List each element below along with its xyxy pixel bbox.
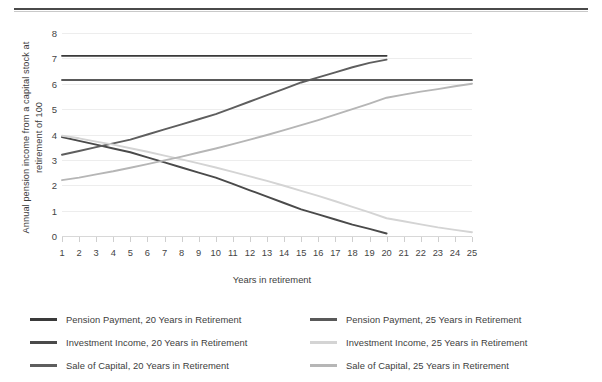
y-tick-label: 1 bbox=[52, 205, 57, 216]
x-tick-label: 11 bbox=[228, 248, 238, 258]
x-tick-label: 9 bbox=[196, 248, 201, 258]
x-tick bbox=[199, 237, 200, 242]
x-tick-label: 7 bbox=[162, 248, 167, 258]
x-tick-label: 15 bbox=[296, 248, 306, 258]
legend-item[interactable]: Sale of Capital, 20 Years in Retirement bbox=[30, 354, 292, 377]
y-tick-label: 2 bbox=[52, 180, 57, 191]
x-tick bbox=[96, 237, 97, 242]
legend-swatch-icon bbox=[310, 341, 337, 344]
x-tick-label: 12 bbox=[245, 248, 255, 258]
x-tick-label: 5 bbox=[128, 248, 133, 258]
legend-swatch-icon bbox=[30, 318, 57, 321]
series-layer bbox=[62, 33, 472, 236]
x-tick-label: 16 bbox=[313, 248, 323, 258]
x-tick-label: 18 bbox=[347, 248, 357, 258]
legend-item[interactable]: Pension Payment, 25 Years in Retirement bbox=[310, 308, 572, 331]
legend-swatch-icon bbox=[30, 364, 57, 367]
figure-top-rule-secondary bbox=[14, 11, 588, 12]
x-tick-label: 3 bbox=[94, 248, 99, 258]
legend-label: Pension Payment, 20 Years in Retirement bbox=[66, 314, 242, 325]
x-tick bbox=[79, 237, 80, 242]
x-tick bbox=[421, 237, 422, 242]
x-tick-label: 19 bbox=[364, 248, 374, 258]
x-tick-label: 24 bbox=[450, 248, 460, 258]
x-tick-label: 22 bbox=[416, 248, 426, 258]
y-tick-label: 0 bbox=[52, 231, 57, 242]
legend-label: Pension Payment, 25 Years in Retirement bbox=[346, 314, 522, 325]
x-tick bbox=[404, 237, 405, 242]
series-line bbox=[62, 60, 387, 155]
legend-swatch-icon bbox=[310, 364, 337, 367]
y-tick-label: 6 bbox=[52, 78, 57, 89]
x-tick bbox=[147, 237, 148, 242]
x-tick-label: 23 bbox=[433, 248, 443, 258]
x-tick-label: 20 bbox=[381, 248, 391, 258]
legend-swatch-icon bbox=[30, 341, 57, 344]
legend-item[interactable]: Pension Payment, 20 Years in Retirement bbox=[30, 308, 292, 331]
x-tick-label: 14 bbox=[279, 248, 289, 258]
x-tick-label: 1 bbox=[59, 248, 64, 258]
x-axis-title: Years in retirement bbox=[62, 274, 482, 285]
y-tick-label: 7 bbox=[52, 53, 57, 64]
x-tick-label: 21 bbox=[398, 248, 408, 258]
legend-item[interactable]: Investment Income, 25 Years in Retiremen… bbox=[310, 331, 572, 354]
legend-swatch-icon bbox=[310, 318, 337, 321]
x-tick bbox=[472, 237, 473, 242]
x-tick bbox=[233, 237, 234, 242]
x-tick bbox=[370, 237, 371, 242]
x-tick-label: 13 bbox=[262, 248, 272, 258]
legend-label: Investment Income, 25 Years in Retiremen… bbox=[346, 337, 527, 348]
x-tick bbox=[216, 237, 217, 242]
x-tick-label: 17 bbox=[330, 248, 340, 258]
y-tick-label: 8 bbox=[52, 28, 57, 39]
y-tick-label: 5 bbox=[52, 104, 57, 115]
legend-label: Sale of Capital, 25 Years in Retirement bbox=[346, 360, 509, 371]
series-line bbox=[62, 84, 472, 180]
x-tick bbox=[267, 237, 268, 242]
legend-label: Sale of Capital, 20 Years in Retirement bbox=[66, 360, 229, 371]
legend-label: Investment Income, 20 Years in Retiremen… bbox=[66, 337, 247, 348]
x-tick-label: 10 bbox=[211, 248, 221, 258]
legend-item[interactable]: Investment Income, 20 Years in Retiremen… bbox=[30, 331, 292, 354]
chart-legend: Pension Payment, 20 Years in RetirementP… bbox=[30, 308, 575, 377]
x-tick bbox=[250, 237, 251, 242]
x-tick-label: 6 bbox=[145, 248, 150, 258]
x-tick-label: 8 bbox=[179, 248, 184, 258]
x-tick bbox=[130, 237, 131, 242]
x-tick bbox=[182, 237, 183, 242]
x-tick-label: 4 bbox=[111, 248, 116, 258]
x-tick bbox=[318, 237, 319, 242]
x-tick bbox=[352, 237, 353, 242]
x-tick bbox=[438, 237, 439, 242]
plot-wrapper: 012345678 123456789101112131415161718192… bbox=[40, 26, 495, 246]
x-tick-label: 2 bbox=[76, 248, 81, 258]
x-tick-label: 25 bbox=[467, 248, 477, 258]
x-tick bbox=[335, 237, 336, 242]
x-tick bbox=[62, 237, 63, 242]
y-tick-label: 3 bbox=[52, 154, 57, 165]
series-line bbox=[62, 137, 387, 233]
x-tick bbox=[387, 237, 388, 242]
x-tick bbox=[113, 237, 114, 242]
chart-figure: Annual pension income from a capital sto… bbox=[0, 0, 602, 382]
y-tick-label: 4 bbox=[52, 129, 57, 140]
x-tick bbox=[165, 237, 166, 242]
x-tick bbox=[284, 237, 285, 242]
legend-item[interactable]: Sale of Capital, 25 Years in Retirement bbox=[310, 354, 572, 377]
x-tick bbox=[455, 237, 456, 242]
plot-area: 012345678 123456789101112131415161718192… bbox=[62, 33, 472, 236]
figure-top-rule bbox=[14, 8, 588, 10]
x-tick bbox=[301, 237, 302, 242]
